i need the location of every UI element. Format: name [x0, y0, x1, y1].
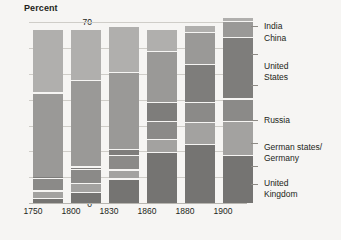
legend-label-united-states-line2: States: [264, 72, 288, 82]
bar-segment-1830-4[interactable]: [109, 73, 139, 149]
bar-segment-1880-0[interactable]: [185, 145, 215, 203]
legend-label-united-kingdom-line1: United: [264, 178, 289, 188]
legend: India China United States Russia German …: [249, 0, 341, 240]
legend-leader-united-states: [251, 85, 258, 86]
legend-label-india-line1: India: [264, 21, 282, 31]
legend-item-india[interactable]: India: [264, 21, 282, 32]
bar-segment-1830-0[interactable]: [109, 180, 139, 203]
bar-1750[interactable]: [33, 29, 63, 203]
legend-leader-german-states-2: [251, 166, 258, 167]
bar-segment-1800-0[interactable]: [71, 193, 101, 203]
bar-segment-1830-3[interactable]: [109, 150, 139, 155]
legend-item-russia[interactable]: Russia: [264, 115, 290, 126]
bar-1880[interactable]: [185, 25, 215, 203]
legend-label-china-line1: China: [264, 33, 286, 43]
bar-segment-1750-1[interactable]: [33, 192, 63, 198]
legend-leader-china: [251, 54, 258, 55]
stacked-bar-chart: Percent 70 60 50 40 30 20 10 0 1750 1800…: [0, 0, 341, 240]
legend-label-russia-line1: Russia: [264, 115, 290, 125]
legend-leader-united-kingdom: [251, 184, 258, 185]
legend-leader-india: [251, 26, 258, 27]
bar-segment-1800-2[interactable]: [71, 170, 101, 183]
bar-segment-1860-1[interactable]: [147, 140, 177, 151]
legend-item-china[interactable]: China: [264, 33, 286, 44]
bar-segment-1800-3[interactable]: [71, 168, 101, 169]
bar-segment-1830-5[interactable]: [109, 27, 139, 71]
bar-segment-1830-2[interactable]: [109, 156, 139, 169]
bar-1860[interactable]: [147, 29, 177, 203]
bar-1830[interactable]: [109, 26, 139, 203]
bar-segment-1750-5[interactable]: [33, 30, 63, 92]
bar-segment-1830-1[interactable]: [109, 171, 139, 179]
legend-label-united-kingdom-line2: Kingdom: [264, 189, 298, 199]
legend-label-german-states-line2: Germany: [264, 153, 299, 163]
gridline-0: [29, 203, 247, 204]
legend-label-german-states-line1: German states/: [264, 142, 322, 152]
bar-segment-1750-0[interactable]: [33, 199, 63, 203]
legend-leader-russia: [251, 120, 258, 121]
bar-segment-1860-2[interactable]: [147, 122, 177, 139]
legend-label-united-states-line1: United: [264, 61, 289, 71]
legend-leader-german-states: [251, 143, 258, 144]
legend-item-german-states[interactable]: German states/ Germany: [264, 142, 341, 163]
bar-segment-1860-5[interactable]: [147, 30, 177, 51]
bar-segment-1880-4[interactable]: [185, 33, 215, 64]
x-tick-label-1900: 1900: [201, 206, 245, 216]
bar-1800[interactable]: [71, 29, 101, 203]
bar-segment-1880-2[interactable]: [185, 103, 215, 121]
bar-segment-1800-1[interactable]: [71, 184, 101, 192]
legend-item-united-kingdom[interactable]: United Kingdom: [264, 178, 341, 199]
bar-segment-1880-3[interactable]: [185, 65, 215, 102]
gridline-70: [29, 22, 247, 23]
bar-segment-1860-3[interactable]: [147, 103, 177, 120]
bar-segment-1880-5[interactable]: [185, 26, 215, 32]
bar-segment-1800-4[interactable]: [71, 81, 101, 166]
bar-segment-1800-5[interactable]: [71, 30, 101, 80]
bar-segment-1860-4[interactable]: [147, 52, 177, 102]
bar-segment-1750-4[interactable]: [33, 94, 63, 178]
plot-area: [29, 22, 247, 203]
bar-segment-1880-1[interactable]: [185, 123, 215, 144]
bar-segment-1750-2[interactable]: [33, 179, 63, 191]
y-axis-title: Percent: [24, 3, 58, 13]
legend-item-united-states[interactable]: United States: [264, 61, 341, 82]
bar-segment-1860-0[interactable]: [147, 153, 177, 203]
